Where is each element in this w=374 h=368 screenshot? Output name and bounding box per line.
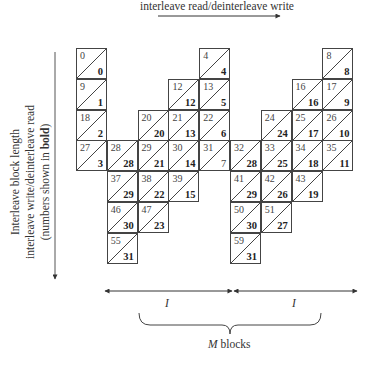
read-index: 25 [277,158,288,169]
write-index: 47 [142,204,152,215]
read-index: 28 [123,158,134,169]
grid-cell: 179 [322,79,353,110]
read-index: 30 [247,220,258,231]
grid-cell: 91 [76,79,107,110]
grid-cell: 2517 [292,110,323,141]
grid-cell: 4319 [292,171,323,202]
read-index: 21 [154,158,165,169]
side-axis-labels: Interleave block length interleave write… [8,32,56,332]
grid-cell: 3822 [138,171,169,202]
read-index: 18 [308,158,319,169]
write-index: 20 [142,112,152,123]
write-index: 17 [326,81,336,92]
read-index: 8 [344,66,349,77]
read-index: 20 [154,128,165,139]
write-index: 0 [80,50,85,61]
read-index: 5 [221,97,226,108]
read-index: 2 [98,128,103,139]
grid-cell: 5127 [261,202,292,233]
grid-cell: 2424 [261,110,292,141]
write-index: 59 [234,235,244,246]
grid-cell: 226 [199,110,230,141]
read-index: 4 [221,66,226,77]
read-index: 13 [185,128,196,139]
grid-cell: 4723 [138,202,169,233]
read-index: 9 [344,97,349,108]
write-index: 32 [234,142,244,153]
read-index: 26 [277,189,288,200]
write-index: 51 [265,204,275,215]
grid-cell: 2020 [138,110,169,141]
write-index: 22 [203,112,213,123]
grid-cell: 2610 [322,110,353,141]
grid-cell: 5931 [230,233,261,264]
grid-cell: 1212 [168,79,199,110]
write-index: 46 [111,204,121,215]
side-label-line1: Interleave block length [8,32,23,332]
grid-cell: 3325 [261,140,292,171]
read-index: 30 [123,220,134,231]
write-index: 28 [111,142,121,153]
write-index: 55 [111,235,121,246]
grid-cell: 3418 [292,140,323,171]
grid-cell: 88 [322,48,353,79]
write-index: 27 [80,142,90,153]
grid-cell: 3228 [230,140,261,171]
read-index: 16 [308,97,319,108]
read-index: 12 [185,97,196,108]
write-index: 35 [326,142,336,153]
write-index: 39 [172,173,182,184]
grid-cell: 4226 [261,171,292,202]
read-index: 10 [339,128,350,139]
read-index: 23 [154,220,165,231]
grid-cell: 273 [76,140,107,171]
top-axis-label: interleave read/deinterleave write [0,0,374,12]
write-index: 16 [296,81,306,92]
span-label-right: I [292,297,296,309]
write-index: 34 [296,142,306,153]
write-index: 9 [80,81,85,92]
grid-cell: 3511 [322,140,353,171]
write-index: 18 [80,112,90,123]
span-label-left: I [165,297,169,309]
read-index: 31 [247,251,258,262]
write-index: 24 [265,112,275,123]
grid-cell: 182 [76,110,107,141]
grid-cell: 44 [199,48,230,79]
grid-cell: 4630 [107,202,138,233]
write-index: 37 [111,173,121,184]
write-index: 42 [265,173,275,184]
read-index: 6 [221,128,226,139]
write-index: 38 [142,173,152,184]
read-index: 1 [98,97,103,108]
read-index: 28 [247,158,258,169]
read-index: 19 [308,189,319,200]
read-index: 15 [185,189,196,200]
grid-cell: 00 [76,48,107,79]
grid-cell: 1616 [292,79,323,110]
write-index: 43 [296,173,306,184]
grid-cell: 2921 [138,140,169,171]
read-index: 24 [277,128,288,139]
brace-label: M blocks [208,338,251,350]
grid-cell: 3915 [168,171,199,202]
write-index: 8 [326,50,331,61]
read-index: 3 [98,158,103,169]
grid-cell: 3729 [107,171,138,202]
grid-cell: 317 [199,140,230,171]
read-index: 29 [123,189,134,200]
grid-cell: 2828 [107,140,138,171]
write-index: 21 [172,112,182,123]
write-index: 30 [172,142,182,153]
write-index: 50 [234,204,244,215]
read-index: 27 [277,220,288,231]
write-index: 12 [172,81,182,92]
write-index: 31 [203,142,213,153]
write-index: 13 [203,81,213,92]
write-index: 29 [142,142,152,153]
read-index: 11 [339,158,349,169]
grid-cell: 4129 [230,171,261,202]
grid-cell: 3014 [168,140,199,171]
write-index: 33 [265,142,275,153]
read-index: 31 [123,251,134,262]
